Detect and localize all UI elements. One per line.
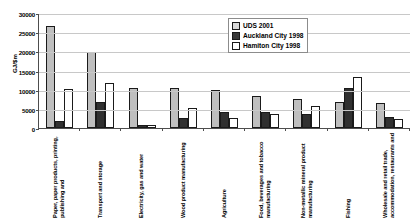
x-axis-label-slot: Transport and storage: [79, 130, 120, 219]
x-axis-label: Agriculture: [221, 132, 228, 218]
bar: [302, 114, 311, 128]
legend-item: UDS 2001: [232, 21, 303, 30]
bar: [55, 121, 64, 128]
bar: [229, 118, 238, 128]
bar: [252, 96, 261, 128]
y-axis-tick-label: 15000: [19, 68, 35, 75]
bar: [394, 119, 403, 128]
x-axis-label-slot: Wholesale and retail trade, accommodatio…: [369, 130, 410, 219]
legend-label: Auckland City 1998: [243, 31, 303, 40]
gridline: [39, 33, 410, 34]
legend-item: Auckland City 1998: [232, 31, 303, 40]
legend-swatch-icon: [232, 32, 240, 40]
bar: [220, 112, 229, 128]
gridline: [39, 14, 410, 15]
bar: [385, 117, 394, 129]
y-axis-tick: [36, 91, 39, 92]
bar: [293, 99, 302, 128]
x-axis-label: Wood product manufacturing: [179, 132, 186, 218]
legend-label: UDS 2001: [243, 21, 273, 30]
y-axis-tick-label: 25000: [19, 30, 35, 37]
y-axis-tick: [36, 14, 39, 15]
bar: [188, 108, 197, 128]
bar: [179, 118, 188, 128]
y-axis-tick-label: 20000: [19, 49, 35, 56]
x-axis-label: Fishing: [345, 132, 352, 218]
x-axis-label: Transport and storage: [97, 132, 104, 218]
bar: [46, 26, 55, 128]
bar: [270, 114, 279, 128]
gridline: [39, 72, 410, 73]
bar: [335, 102, 344, 128]
x-axis-label-slot: Paper, paper products, printing, publish…: [38, 130, 79, 219]
x-axis-label: Food, beverages and tobacco manufacturin…: [259, 132, 272, 218]
bar: [344, 88, 353, 128]
bar: [261, 112, 270, 128]
legend-swatch-icon: [232, 22, 240, 30]
y-axis-tick-label: 5000: [22, 106, 35, 113]
x-axis-label: Electricity, gas and water: [138, 132, 145, 218]
x-axis-category-labels: Paper, paper products, printing, publish…: [38, 130, 410, 219]
x-axis-label: Paper, paper products, printing, publish…: [52, 132, 65, 218]
bar: [147, 125, 156, 128]
y-axis-tick: [36, 72, 39, 73]
gridline: [39, 91, 410, 92]
bar-chart: GJ/$m 300002500020000150001000050000 UDS…: [0, 0, 413, 219]
x-axis-label-slot: Fishing: [327, 130, 368, 219]
bar: [376, 103, 385, 128]
x-axis-label-slot: Wood product manufacturing: [162, 130, 203, 219]
y-axis-tick-label: 0: [32, 126, 35, 133]
legend-item: Hamiton City 1998: [232, 41, 303, 50]
y-axis-tick: [36, 33, 39, 34]
y-axis-tick-labels: 300002500020000150001000050000: [4, 14, 37, 129]
gridline: [39, 52, 410, 53]
bar: [64, 89, 73, 128]
bar: [353, 77, 362, 128]
gridline: [39, 110, 410, 111]
bar: [138, 125, 147, 128]
bar: [96, 102, 105, 128]
bar: [170, 88, 179, 128]
x-axis-label-slot: Non-metallic mineral product manufacturi…: [286, 130, 327, 219]
x-axis-label-slot: Food, beverages and tobacco manufacturin…: [245, 130, 286, 219]
y-axis-tick-label: 30000: [19, 11, 35, 18]
legend-label: Hamiton City 1998: [243, 41, 300, 50]
x-axis-label-slot: Electricity, gas and water: [121, 130, 162, 219]
y-axis-tick: [36, 110, 39, 111]
plot-area: [38, 14, 410, 129]
y-axis-tick: [36, 52, 39, 53]
chart-legend: UDS 2001Auckland City 1998Hamiton City 1…: [228, 18, 308, 53]
legend-swatch-icon: [232, 42, 240, 50]
x-axis-label: Non-metallic mineral product manufacturi…: [300, 132, 313, 218]
x-axis-label: Wholesale and retail trade, accommodatio…: [383, 132, 396, 218]
bar: [129, 88, 138, 128]
y-axis-tick-label: 10000: [19, 87, 35, 94]
x-axis-label-slot: Agriculture: [203, 130, 244, 219]
